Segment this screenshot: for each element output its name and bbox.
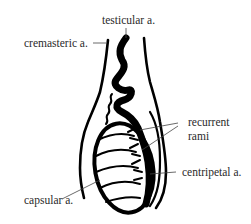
cremasteric-artery [106, 94, 112, 124]
testis-arterial-supply-diagram: testicular a. cremasteric a. recurrent r… [0, 0, 251, 224]
label-cremasteric-artery: cremasteric a. [24, 37, 88, 50]
label-testicular-artery: testicular a. [102, 14, 155, 27]
label-recurrent-rami-line1: recurrent [188, 116, 230, 129]
label-centripetal-artery: centripetal a. [182, 166, 241, 179]
label-capsular-artery: capsular a. [24, 194, 73, 207]
label-recurrent-rami-line2: rami [188, 130, 209, 143]
anatomical-drawing [0, 0, 251, 224]
testicular-artery [115, 38, 149, 204]
